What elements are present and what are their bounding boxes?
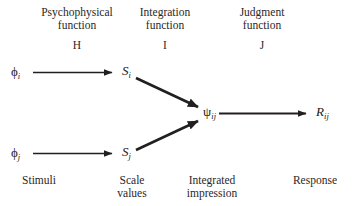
node-phi-i-base: ϕ (11, 64, 18, 79)
node-phi-j: ϕj (11, 145, 20, 161)
node-r-ij-base: R (316, 104, 324, 119)
node-s-j-base: S (122, 144, 129, 159)
node-s-j: Sj (122, 144, 131, 160)
node-phi-j-subscript: j (18, 152, 21, 162)
node-s-i-subscript: i (129, 70, 132, 80)
node-psi-ij: ψij (203, 104, 216, 120)
node-psi-ij-base: ψ (203, 104, 211, 119)
arrow-s-j-to-psi-ij (136, 121, 198, 150)
node-phi-i-subscript: i (18, 71, 21, 81)
stage-label-stimuli: Stimuli (3, 174, 75, 187)
node-phi-i: ϕi (11, 64, 20, 80)
stage-label-integrated-impression: Integrated impression (173, 174, 251, 200)
node-s-j-subscript: j (129, 151, 132, 161)
integration-theory-diagram: Psychophysical function Integration func… (0, 0, 358, 206)
node-phi-j-base: ϕ (11, 145, 18, 160)
node-r-ij-subscript: ij (324, 111, 329, 121)
node-s-i-base: S (122, 63, 129, 78)
stage-label-scale-values: Scale values (104, 174, 160, 200)
node-s-i: Si (122, 63, 131, 79)
arrow-s-i-to-psi-ij (136, 78, 198, 107)
stage-label-response: Response (280, 174, 350, 187)
node-psi-ij-subscript: ij (211, 111, 216, 121)
node-r-ij: Rij (316, 104, 329, 120)
